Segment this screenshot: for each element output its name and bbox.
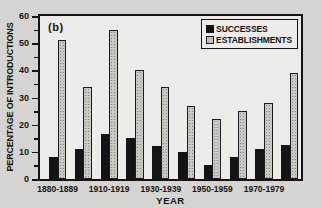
- legend-item-establishments: ESTABLISHMENTS: [206, 34, 292, 45]
- x-tick-label-0: 1880-1889: [32, 184, 84, 194]
- bar-successes-7: [230, 157, 239, 179]
- bar-successes-4: [152, 146, 161, 179]
- successes-swatch-icon: [206, 25, 214, 33]
- x-tick-label-8: 1970-1979: [238, 184, 290, 194]
- bar-establishments-9: [290, 73, 299, 179]
- y-axis-major-tick: [32, 125, 38, 127]
- bar-establishments-7: [238, 111, 247, 179]
- y-axis-minor-tick: [34, 165, 38, 167]
- y-tick-label: 10: [7, 148, 29, 157]
- bar-establishments-2: [109, 30, 118, 179]
- y-axis-minor-tick: [34, 30, 38, 32]
- legend-item-successes: SUCCESSES: [206, 23, 292, 34]
- bar-establishments-6: [212, 119, 221, 179]
- legend: SUCCESSES ESTABLISHMENTS: [201, 19, 298, 49]
- bar-successes-1: [75, 149, 84, 179]
- bar-successes-3: [126, 138, 135, 179]
- y-tick-label: 20: [7, 121, 29, 130]
- bar-successes-6: [204, 165, 213, 179]
- plot-area: (b) SUCCESSES ESTABLISHMENTS: [38, 14, 303, 181]
- x-tick-label-6: 1950-1959: [186, 184, 238, 194]
- bar-successes-5: [178, 152, 187, 179]
- legend-label: ESTABLISHMENTS: [216, 35, 292, 45]
- x-axis-title: YEAR: [38, 195, 303, 206]
- y-tick-label: 40: [7, 66, 29, 75]
- bar-successes-8: [255, 149, 264, 179]
- bar-establishments-5: [187, 106, 196, 179]
- y-axis-major-tick: [32, 98, 38, 100]
- bar-establishments-1: [83, 87, 92, 179]
- bar-establishments-3: [135, 70, 144, 179]
- bar-successes-9: [281, 145, 290, 179]
- bar-successes-0: [49, 157, 58, 179]
- y-axis-major-tick: [32, 152, 38, 154]
- y-tick-label: 30: [7, 94, 29, 103]
- y-axis-minor-tick: [34, 138, 38, 140]
- x-tick-label-4: 1930-1939: [135, 184, 187, 194]
- y-axis-major-tick: [32, 70, 38, 72]
- y-tick-label: 60: [7, 12, 29, 21]
- y-tick-label: 50: [7, 39, 29, 48]
- y-axis-major-tick: [32, 179, 38, 181]
- bar-successes-2: [101, 134, 110, 179]
- y-axis-minor-tick: [34, 111, 38, 113]
- y-axis-minor-tick: [34, 84, 38, 86]
- bar-establishments-8: [264, 103, 273, 179]
- panel-label: (b): [48, 21, 64, 33]
- bar-establishments-4: [161, 87, 170, 179]
- y-axis-minor-tick: [34, 57, 38, 59]
- x-tick-label-2: 1910-1919: [83, 184, 135, 194]
- y-tick-label: 0: [7, 175, 29, 184]
- establishments-swatch-icon: [206, 36, 214, 44]
- bar-chart-figure: PERCENTAGE OF INTRODUCTIONS (b) SUCCESSE…: [0, 0, 321, 208]
- y-axis-major-tick: [32, 43, 38, 45]
- legend-label: SUCCESSES: [216, 24, 268, 34]
- y-axis-major-tick: [32, 16, 38, 18]
- bar-establishments-0: [58, 40, 67, 179]
